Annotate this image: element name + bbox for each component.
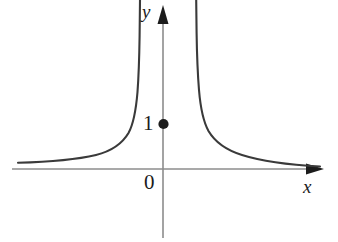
y-intercept-tick-label: 1	[143, 113, 154, 134]
origin-label: 0	[144, 172, 155, 193]
y-axis-label: y	[142, 2, 150, 21]
curve-left-branch	[18, 0, 140, 163]
curve-right-branch	[196, 0, 320, 167]
graph-canvas	[0, 0, 338, 242]
arrow-up-icon	[158, 5, 169, 24]
x-axis-label: x	[303, 177, 311, 196]
graph-figure: y x 1 0	[0, 0, 338, 242]
filled-dot-icon	[158, 119, 168, 129]
